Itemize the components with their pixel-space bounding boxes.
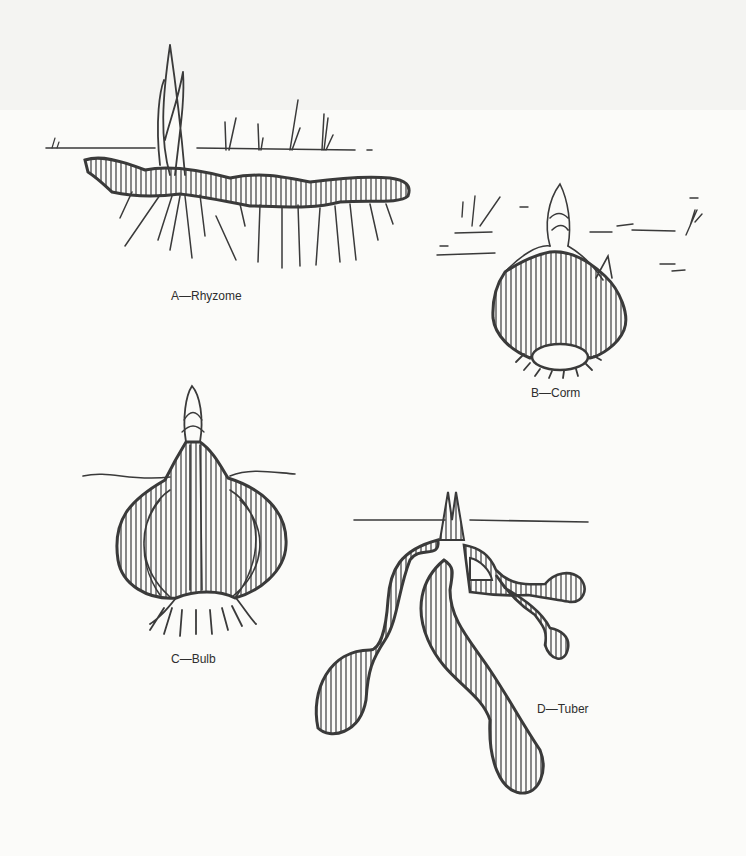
tuber-drawing [316,492,588,793]
corm-drawing [437,184,702,378]
bulb-drawing [83,386,295,636]
rhyzome-drawing [46,45,409,268]
illustration [0,0,746,856]
label-bulb: C—Bulb [171,652,216,666]
label-rhyzome: A—Rhyzome [171,289,242,303]
label-corm: B—Corm [531,386,580,400]
label-tuber: D—Tuber [537,702,589,716]
